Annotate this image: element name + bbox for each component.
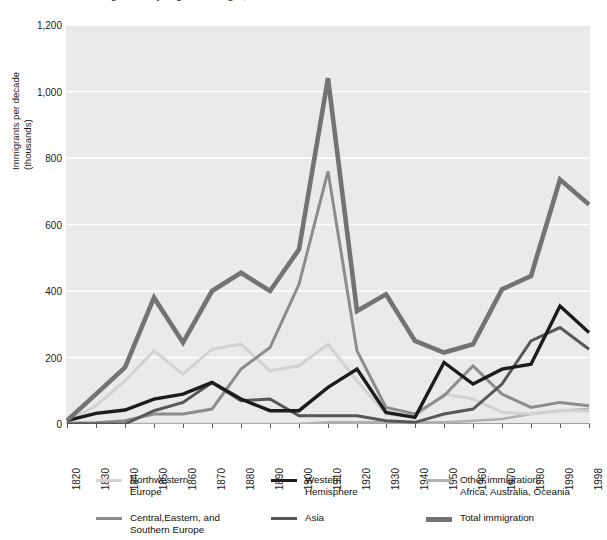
y-tick-label: 200 [18, 352, 62, 363]
x-tick-mark [502, 424, 503, 428]
chart-legend: Northwestern EuropeCentral,Eastern, and … [66, 474, 596, 536]
data-series-group [67, 78, 589, 424]
legend-label-total-immigration: Total immigration [460, 512, 534, 524]
y-axis-tick-labels: 02004006008001,0001,200 [14, 0, 62, 540]
legend-item-other-immigration[interactable]: Other immigration: Africa, Australia, Oc… [426, 474, 570, 497]
y-tick-label: 800 [18, 153, 62, 164]
legend-swatch-central-eastern-southern-europe [96, 517, 122, 520]
legend-item-northwestern-europe[interactable]: Northwestern Europe [96, 474, 188, 497]
x-tick-mark [270, 424, 271, 428]
series-line-asia [67, 328, 589, 424]
y-tick-label: 1,200 [18, 20, 62, 31]
x-tick-mark [125, 424, 126, 428]
y-tick-label: 400 [18, 286, 62, 297]
x-tick-mark [473, 424, 474, 428]
legend-item-western-hemisphere[interactable]: Western Hemisphere [271, 474, 358, 497]
y-tick-label: 600 [18, 219, 62, 230]
legend-label-asia: Asia [305, 512, 324, 524]
y-tick-label: 1,000 [18, 86, 62, 97]
plot-svg [66, 25, 590, 424]
x-tick-mark [241, 424, 242, 428]
legend-swatch-other-immigration [426, 479, 452, 482]
legend-swatch-northwestern-europe [96, 479, 122, 482]
x-tick-mark [212, 424, 213, 428]
x-tick-mark [415, 424, 416, 428]
legend-swatch-western-hemisphere [271, 479, 297, 482]
legend-label-other-immigration: Other immigration: Africa, Australia, Oc… [460, 474, 570, 497]
x-tick-mark [357, 424, 358, 428]
legend-swatch-asia [271, 517, 297, 520]
legend-item-total-immigration[interactable]: Total immigration [426, 512, 534, 524]
legend-label-northwestern-europe: Northwestern Europe [130, 474, 188, 497]
x-axis-tick-labels: 1820183018401850186018701880189019001910… [66, 428, 590, 476]
x-tick-mark [299, 424, 300, 428]
legend-swatch-total-immigration [426, 517, 452, 522]
legend-item-central-eastern-southern-europe[interactable]: Central,Eastern, and Southern Europe [96, 512, 220, 535]
legend-label-western-hemisphere: Western Hemisphere [305, 474, 358, 497]
x-tick-mark [531, 424, 532, 428]
legend-item-asia[interactable]: Asia [271, 512, 324, 524]
x-tick-mark [67, 424, 68, 428]
series-line-northwestern-europe [67, 344, 589, 422]
x-tick-mark [444, 424, 445, 428]
x-tick-mark [560, 424, 561, 428]
y-tick-label: 0 [18, 419, 62, 430]
immigration-line-chart: Immigrants per decade (thousands) 020040… [0, 0, 607, 540]
x-tick-mark [96, 424, 97, 428]
x-tick-mark [589, 424, 590, 428]
x-tick-mark [386, 424, 387, 428]
plot-area [66, 25, 590, 424]
x-tick-mark [183, 424, 184, 428]
legend-label-central-eastern-southern-europe: Central,Eastern, and Southern Europe [130, 512, 220, 535]
x-tick-mark [328, 424, 329, 428]
x-tick-mark [154, 424, 155, 428]
